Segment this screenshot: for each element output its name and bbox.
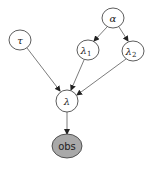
edge-lambda1-lambda bbox=[71, 60, 84, 90]
edge-tau-lambda bbox=[27, 48, 60, 91]
node-label: λ bbox=[125, 46, 132, 57]
node-label: α bbox=[110, 13, 117, 24]
node-obs-observed: obs bbox=[52, 134, 82, 158]
node-label: λ bbox=[63, 96, 70, 107]
graphical-model-diagram: τ α λ1 λ2 λ obs bbox=[0, 0, 157, 169]
node-alpha: α bbox=[102, 8, 124, 28]
edge-lambda2-lambda bbox=[77, 59, 126, 95]
edge-alpha-lambda2 bbox=[119, 27, 128, 41]
node-label: λ bbox=[80, 45, 87, 56]
node-lambda: λ bbox=[56, 90, 78, 112]
node-label: τ bbox=[17, 35, 23, 46]
node-subscript: 1 bbox=[87, 50, 91, 58]
node-subscript: 2 bbox=[132, 51, 136, 59]
node-tau: τ bbox=[9, 30, 31, 50]
edge-alpha-lambda1 bbox=[94, 27, 107, 41]
node-label: obs bbox=[58, 141, 76, 152]
edges bbox=[27, 27, 128, 134]
node-lambda2: λ2 bbox=[122, 41, 144, 61]
node-lambda1: λ1 bbox=[77, 40, 99, 60]
